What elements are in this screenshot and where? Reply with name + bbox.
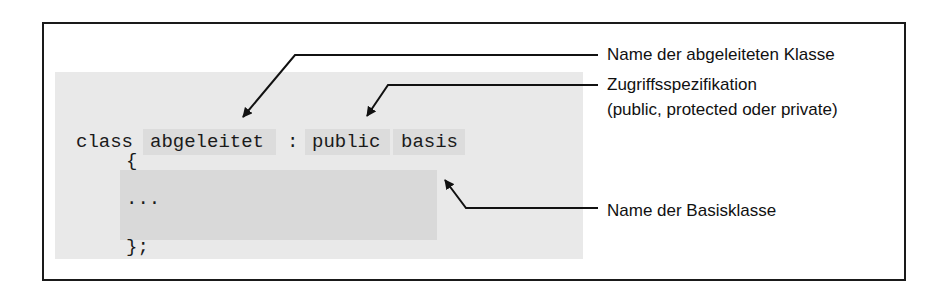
leader-lines [0,0,947,306]
arrow-access-specifier-icon [367,85,598,116]
arrow-base-class-icon [445,180,598,208]
